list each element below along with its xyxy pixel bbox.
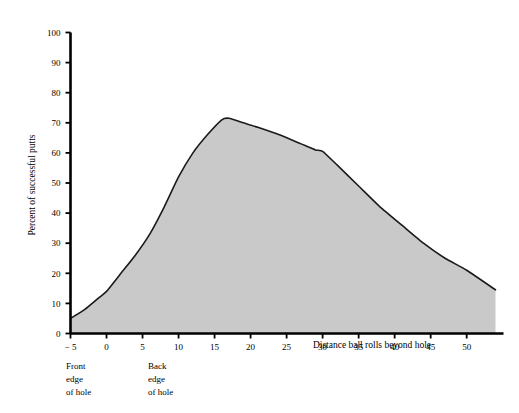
y-tick-label: 70 bbox=[52, 118, 62, 128]
y-tick-label: 100 bbox=[47, 28, 61, 38]
annotation-back-edge-line3: of hole bbox=[148, 387, 173, 397]
y-tick-label: 80 bbox=[52, 88, 62, 98]
x-tick-label: 50 bbox=[462, 342, 472, 352]
x-tick-label: − 5 bbox=[65, 342, 77, 352]
x-tick-label: 0 bbox=[104, 342, 109, 352]
putting-success-area-chart: 0102030405060708090100 − 505101520253035… bbox=[0, 0, 519, 413]
annotation-front-edge-line1: Front bbox=[66, 361, 86, 371]
y-tick-label: 40 bbox=[52, 208, 62, 218]
x-tick-label: 10 bbox=[174, 342, 184, 352]
annotation-front-edge-line2: edge bbox=[66, 374, 83, 384]
x-tick-label: 5 bbox=[140, 342, 145, 352]
y-tick-label: 50 bbox=[52, 178, 62, 188]
y-axis-title: Percent of successful putts bbox=[27, 134, 37, 235]
annotation-back-edge-line1: Back bbox=[148, 361, 167, 371]
annotation-back-edge-line2: edge bbox=[148, 374, 165, 384]
y-tick-label: 90 bbox=[52, 58, 62, 68]
y-tick-label: 0 bbox=[56, 329, 61, 339]
y-tick-label: 60 bbox=[52, 148, 62, 158]
x-axis-title: Distance ball rolls beyond hole bbox=[313, 340, 431, 350]
y-tick-label: 10 bbox=[52, 299, 62, 309]
x-tick-label: 25 bbox=[282, 342, 292, 352]
y-tick-label: 20 bbox=[52, 269, 62, 279]
y-tick-label: 30 bbox=[52, 238, 62, 248]
x-tick-label: 20 bbox=[246, 342, 256, 352]
x-tick-label: 15 bbox=[210, 342, 220, 352]
annotation-front-edge-line3: of hole bbox=[66, 387, 91, 397]
chart-figure: 0102030405060708090100 − 505101520253035… bbox=[0, 0, 519, 413]
